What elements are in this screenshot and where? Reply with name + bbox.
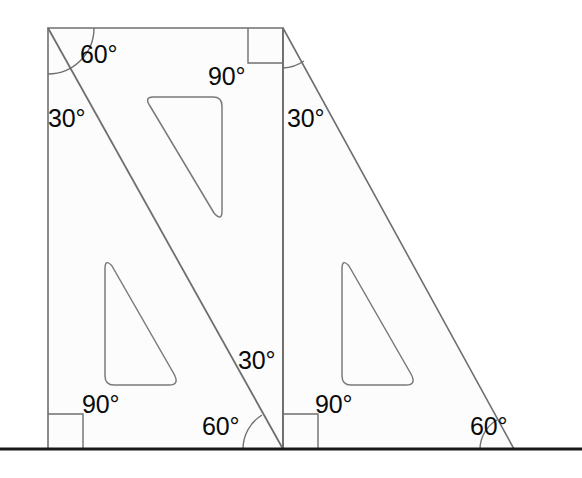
label-90-top-right: 90° [208, 64, 245, 89]
label-30-center: 30° [238, 348, 275, 373]
label-90-bottom-right: 90° [315, 392, 352, 417]
label-90-bottom-left: 90° [82, 392, 119, 417]
label-60-top-left: 60° [80, 42, 117, 67]
label-30-left: 30° [48, 106, 85, 131]
label-60-bottom-center: 60° [202, 414, 239, 439]
label-30-right-plate: 30° [287, 106, 324, 131]
geometry-figure: 60° 90° 30° 30° 30° 90° 60° 90° 60° [0, 0, 582, 478]
right-set-square [283, 28, 514, 449]
label-60-bottom-far-right: 60° [470, 414, 507, 439]
